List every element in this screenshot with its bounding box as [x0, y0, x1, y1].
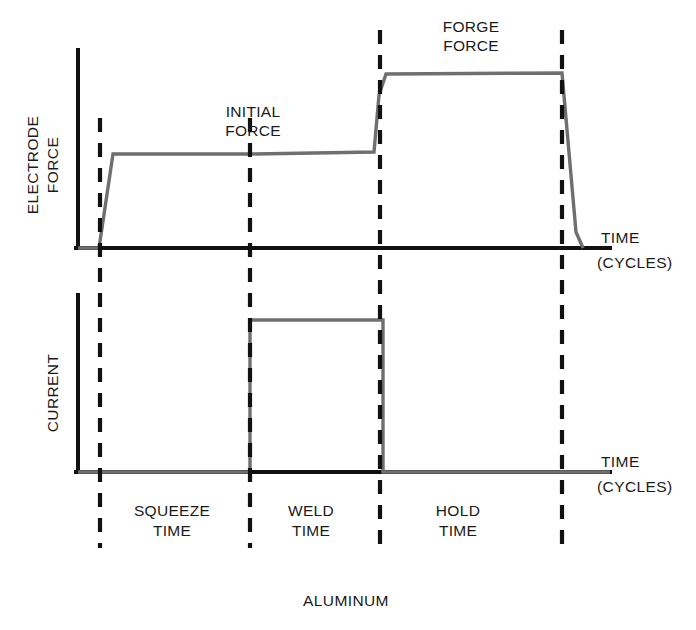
- figure-caption: ALUMINUM: [303, 592, 389, 609]
- forge-force-annotation: FORGE FORCE: [443, 18, 500, 54]
- welding-current-trace: [78, 320, 610, 472]
- phase-label-squeeze: SQUEEZE TIME: [134, 502, 210, 539]
- force-y-axis-label-line2: FORCE: [44, 137, 61, 193]
- force-time-units-label: (CYCLES): [597, 254, 673, 271]
- force-y-axis-label-line1: ELECTRODE: [24, 116, 41, 214]
- initial-force-annotation: INITIAL FORCE: [225, 103, 281, 139]
- squeeze-time-label-line2: TIME: [153, 522, 191, 539]
- squeeze-time-label-line1: SQUEEZE: [134, 502, 210, 519]
- weld-time-label-line2: TIME: [292, 522, 330, 539]
- current-time-label: TIME: [601, 453, 640, 470]
- phase-label-hold: HOLD TIME: [436, 502, 480, 539]
- welding-current-panel: [76, 295, 610, 472]
- phase-label-weld: WELD TIME: [288, 502, 334, 539]
- initial-force-label-line1: INITIAL: [226, 103, 281, 120]
- current-y-axis-label: CURRENT: [44, 354, 61, 433]
- force-time-label: TIME: [601, 229, 640, 246]
- welding-schedule-diagram: INITIAL FORCE FORGE FORCE ELECTRODE FORC…: [0, 0, 696, 630]
- initial-force-label-line2: FORCE: [225, 122, 281, 139]
- electrode-force-panel: [76, 50, 610, 248]
- hold-time-label-line1: HOLD: [436, 502, 480, 519]
- hold-time-label-line2: TIME: [439, 522, 477, 539]
- current-y-axis-label-text: CURRENT: [44, 354, 61, 433]
- force-y-axis-label: ELECTRODE FORCE: [24, 116, 61, 214]
- electrode-force-trace: [78, 73, 583, 248]
- current-time-units-label: (CYCLES): [597, 478, 673, 495]
- weld-time-label-line1: WELD: [288, 502, 334, 519]
- forge-force-label-line1: FORGE: [443, 18, 500, 35]
- forge-force-label-line2: FORCE: [443, 37, 499, 54]
